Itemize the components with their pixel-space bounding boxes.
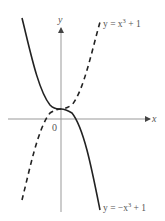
y-axis-label: y (57, 14, 63, 25)
origin-label: 0 (52, 122, 57, 133)
x-axis-label: x (151, 113, 157, 124)
cubic-graph: y x 0 y = x3 + 1 y = −x3 + 1 (0, 0, 165, 221)
label-pos-cubic: y = x3 + 1 (103, 17, 141, 29)
label-neg-cubic: y = −x3 + 1 (103, 201, 146, 213)
